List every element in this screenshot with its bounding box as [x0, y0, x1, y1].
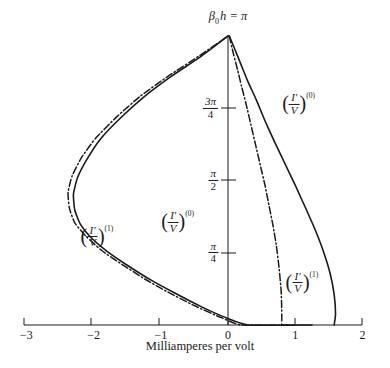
admittance-ratio: I′V	[87, 225, 98, 249]
x-ticks-group	[24, 318, 362, 325]
ratio-numerator: I′	[87, 225, 98, 238]
label-far-left: (I′V)(1)	[97, 237, 130, 261]
left-paren: (	[285, 271, 292, 293]
curve-zeroth-order-left-branch	[73, 36, 312, 325]
plot-canvas	[0, 0, 390, 368]
label-mid-left: (I′V)(0)	[178, 222, 211, 246]
curve-zeroth-order-right-branch	[229, 36, 335, 325]
order-superscript: (0)	[306, 91, 315, 100]
left-paren: (	[282, 92, 289, 114]
x-tick-label-0: −3	[20, 329, 33, 341]
ratio-denominator: V	[289, 105, 300, 117]
admittance-ratio: I′V	[168, 210, 179, 234]
order-superscript: (1)	[310, 270, 319, 279]
admittance-ratio: I′V	[292, 271, 303, 295]
label-top-right: (I′V)(0)	[299, 104, 332, 128]
ratio-numerator: I′	[292, 271, 303, 284]
y-tick-numerator-1: π	[208, 168, 218, 181]
y-tick-denominator-0: 4	[208, 253, 218, 265]
plot-title: β0h = π	[209, 10, 247, 26]
figure-container: β0h = π −3−2−1012 π4π23π4 Milliamperes p…	[0, 0, 390, 368]
x-axis-caption: Milliamperes per volt	[146, 340, 254, 353]
ratio-numerator: I′	[168, 210, 179, 223]
label-bottom-right: (I′V)(1)	[302, 283, 335, 307]
curve-first-order-left-branch	[68, 36, 295, 325]
y-tick-label-2: 3π4	[218, 108, 233, 133]
title-rest: h = π	[220, 9, 247, 23]
y-tick-label-1: π2	[218, 180, 228, 205]
ratio-denominator: V	[168, 222, 179, 234]
y-tick-denominator-1: 2	[208, 181, 218, 193]
y-tick-numerator-2: 3π	[203, 96, 218, 109]
order-superscript: (1)	[105, 224, 114, 233]
y-tick-denominator-2: 4	[203, 109, 218, 121]
left-paren: (	[81, 225, 88, 247]
x-tick-label-4: 1	[292, 329, 298, 341]
ratio-denominator: V	[87, 237, 98, 249]
x-tick-label-1: −2	[87, 329, 100, 341]
ratio-numerator: I′	[289, 92, 300, 105]
order-superscript: (0)	[185, 209, 194, 218]
left-paren: (	[161, 210, 168, 232]
title-subscript: 0	[215, 17, 219, 26]
ratio-denominator: V	[292, 283, 303, 295]
x-tick-label-5: 2	[359, 329, 365, 341]
y-tick-label-0: π4	[218, 253, 228, 278]
admittance-ratio: I′V	[289, 92, 300, 116]
curve-first-order-right-branch	[229, 36, 281, 325]
